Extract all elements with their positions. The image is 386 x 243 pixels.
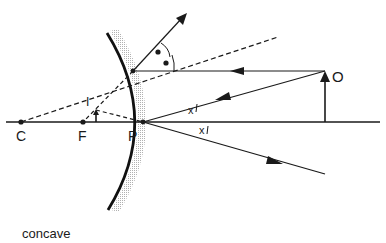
construction-line-to-image [83, 71, 133, 122]
object-arrowhead [320, 71, 330, 82]
point-f-dot [80, 119, 85, 124]
angle-arc-top2 [172, 55, 174, 71]
mirror-shading [110, 29, 146, 212]
reflection-point-dot [131, 69, 136, 74]
reflected-ray-from-pole [143, 122, 325, 174]
ray-arrowhead-down-left [215, 92, 231, 100]
label-f: F [78, 128, 87, 144]
angle-tick [207, 126, 208, 134]
angle-dot [155, 49, 160, 54]
label-c: C [16, 128, 26, 144]
incident-ray-to-pole [143, 71, 325, 122]
angle-arc-top [161, 43, 170, 57]
ray-arrowhead-left [230, 67, 244, 75]
ray-arrowhead-down-right [266, 156, 283, 164]
image-arrowhead [93, 109, 99, 115]
label-i: I [86, 95, 89, 109]
label-o: O [332, 68, 344, 85]
angle-dot [163, 60, 168, 65]
reflected-ray-top [133, 18, 182, 71]
diagram-title: concave [22, 226, 70, 241]
label-angle-incident: x [188, 104, 194, 116]
concave-mirror-diagram: C F P O I x x concave [0, 0, 386, 243]
angle-tick [196, 104, 197, 112]
label-p: P [128, 128, 137, 144]
point-c-dot [18, 119, 23, 124]
normal-line [21, 37, 278, 122]
point-p-dot [141, 120, 146, 125]
label-angle-reflected: x [199, 124, 205, 136]
